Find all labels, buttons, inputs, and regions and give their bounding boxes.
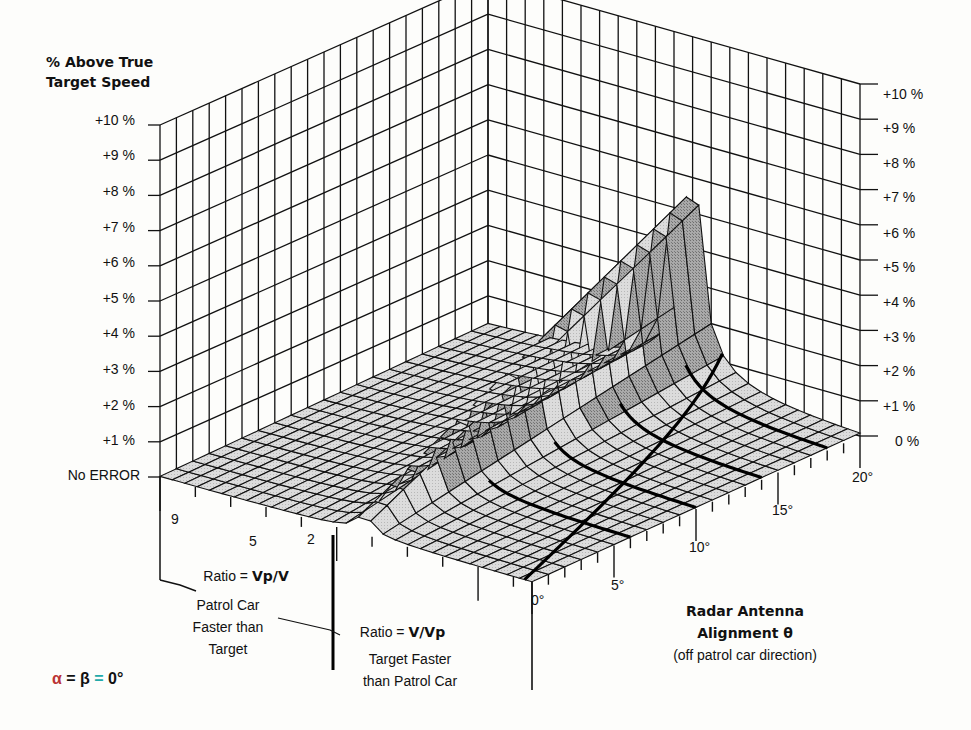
target-faster-line1: Target Faster (345, 648, 475, 670)
left-tick-6: +6 % (55, 254, 135, 270)
right-tick-3: +3 % (883, 329, 915, 345)
left-tick-9: +9 % (55, 147, 135, 163)
ratio-right-formula: V/Vp (408, 624, 445, 640)
angle-axis-title-line1: Radar Antenna (600, 600, 890, 622)
right-tick-9: +9 % (883, 120, 915, 136)
patrol-faster-line3: Target (178, 638, 278, 660)
left-tick-1: +1 % (55, 432, 135, 448)
right-tick-4: +4 % (883, 294, 915, 310)
z-axis-title: % Above True Target Speed (46, 52, 153, 92)
left-tick-3: +3 % (55, 361, 135, 377)
right-tick-7: +7 % (883, 189, 915, 205)
angle-tick-15: 15° (772, 502, 793, 518)
patrol-faster-line1: Patrol Car (178, 594, 278, 616)
angle-tick-20: 20° (852, 469, 873, 485)
equals-1: = (62, 670, 80, 687)
angle-tick-0: 0° (531, 592, 544, 608)
right-tick-5: +5 % (883, 259, 915, 275)
ratio-tick-5: 5 (249, 533, 257, 549)
left-tick-2: +2 % (55, 397, 135, 413)
zero-degrees: 0° (108, 670, 123, 687)
patrol-faster-line2: Faster than (178, 616, 278, 638)
angle-axis-title-line3: (off patrol car direction) (600, 644, 890, 666)
ratio-tick-2: 2 (307, 531, 315, 547)
right-tick-1: +1 % (883, 398, 915, 414)
ratio-tick-9: 9 (171, 511, 179, 527)
left-tick-5: +5 % (55, 290, 135, 306)
right-tick-8: +8 % (883, 155, 915, 171)
ratio-left-label: Ratio = Vp/V (186, 565, 306, 587)
ratio-right-prefix: Ratio = (360, 624, 409, 640)
equals-2: = (90, 670, 108, 687)
right-tick-6: +6 % (883, 225, 915, 241)
patrol-faster-desc: Patrol Car Faster than Target (178, 594, 278, 660)
angle-axis-title-line2: Alignment θ (600, 622, 890, 644)
alpha-symbol: α (52, 670, 62, 687)
z-axis-title-line2: Target Speed (46, 72, 153, 92)
ratio-right-label: Ratio = V/Vp (340, 621, 465, 643)
target-faster-line2: than Patrol Car (345, 670, 475, 692)
left-tick-10: +10 % (55, 112, 135, 128)
right-tick-10: +10 % (883, 86, 923, 102)
left-tick-4: +4 % (55, 325, 135, 341)
angle-tick-10: 10° (689, 539, 710, 555)
left-tick-8: +8 % (55, 183, 135, 199)
beta-symbol: β (80, 670, 90, 687)
target-faster-desc: Target Faster than Patrol Car (345, 648, 475, 692)
left-tick-7: +7 % (55, 219, 135, 235)
z-axis-title-line1: % Above True (46, 52, 153, 72)
angle-formula: α = β = 0° (52, 670, 123, 688)
ratio-left-prefix: Ratio = (203, 568, 252, 584)
right-tick-2: +2 % (883, 363, 915, 379)
angle-axis-title: Radar Antenna Alignment θ (off patrol ca… (600, 600, 890, 666)
angle-tick-5: 5° (611, 577, 624, 593)
right-tick-0: 0 % (895, 433, 919, 449)
left-tick-0: No ERROR (60, 467, 140, 483)
ratio-left-formula: Vp/V (252, 568, 289, 584)
